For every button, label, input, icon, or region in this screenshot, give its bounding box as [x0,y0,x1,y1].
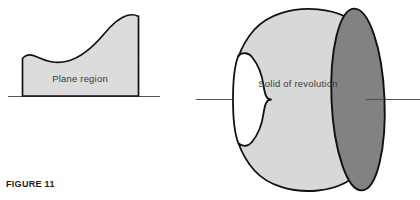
figure-caption: FIGURE 11 [6,179,55,189]
plane-region-label: Plane region [52,73,108,84]
plane-region-group: Plane region [8,15,160,97]
figure-illustration: Plane region Solid of revolution [0,0,420,200]
solid-of-revolution-group: Solid of revolution [196,7,420,191]
solid-of-revolution-label: Solid of revolution [258,78,337,89]
solid-left-rim [233,56,239,144]
